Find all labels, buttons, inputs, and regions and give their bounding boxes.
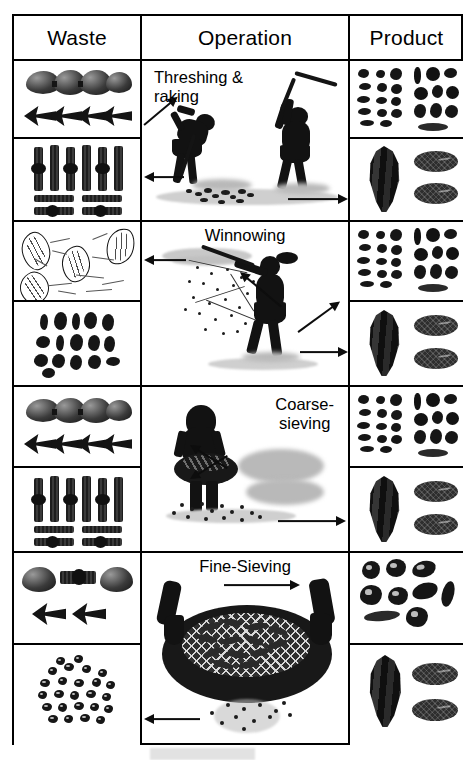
waste-cell-rachis-internodes-r3 xyxy=(14,387,140,466)
mixed-seeds-specimen xyxy=(350,222,463,300)
waste-cell-dark-fragments-r2 xyxy=(14,302,140,385)
column-header-waste: Waste xyxy=(14,16,140,59)
waste-cell-rachis-fragments-r4 xyxy=(14,553,140,643)
product-cell-cleaned-grain-r4 xyxy=(350,553,463,643)
rachis-fragment-specimen xyxy=(14,553,140,643)
spikelet-and-grains-specimen xyxy=(350,302,463,385)
waste-cell-culm-nodes-r1 xyxy=(14,139,140,220)
operation-label-coarse-sieving: Coarse- sieving xyxy=(275,395,334,433)
mixed-seeds-specimen xyxy=(350,387,463,466)
operation-cell-winnowing: Winnowing xyxy=(142,222,348,385)
product-cell-mixed-seeds-r1 xyxy=(350,61,463,137)
figure-sheet: Waste Operation Product xyxy=(0,0,474,760)
spikelet-and-grains-specimen xyxy=(350,139,463,220)
product-arrow-horizontal-r2 xyxy=(300,346,348,358)
waste-cell-light-chaff-r2 xyxy=(14,222,140,300)
product-cell-spikelet-grains-r1 xyxy=(350,139,463,220)
waste-arrow-horizontal-r4 xyxy=(144,713,200,725)
operation-label-winnowing: Winnowing xyxy=(142,226,348,245)
spikelet-and-grains-specimen xyxy=(350,645,463,745)
product-arrow-horizontal-r1 xyxy=(288,193,348,205)
dark-fragment-specimen xyxy=(14,302,140,385)
operation-label-fine-sieving: Fine-Sieving xyxy=(142,557,348,576)
product-cell-spikelet-grains-r2 xyxy=(350,302,463,385)
winnowing-scene xyxy=(142,222,348,385)
column-header-product: Product xyxy=(350,16,463,59)
waste-arrow-horizontal-r2 xyxy=(144,254,186,266)
mixed-seeds-specimen xyxy=(350,61,463,137)
waste-arrow-horizontal-r1 xyxy=(144,171,184,183)
column-header-product-label: Product xyxy=(370,26,444,50)
operation-cell-coarse-sieving: Coarse- sieving xyxy=(142,387,348,551)
operation-cell-threshing: Threshing & raking xyxy=(142,61,348,220)
column-header-waste-label: Waste xyxy=(47,26,107,50)
waste-cell-culm-nodes-r3 xyxy=(14,468,140,551)
rachis-internodes-specimen xyxy=(14,61,140,137)
product-arrow-horizontal-r4 xyxy=(224,579,300,591)
light-chaff-specimen xyxy=(14,222,140,300)
culm-nodes-specimen xyxy=(14,139,140,220)
waste-cell-rachis-internodes-r1 xyxy=(14,61,140,137)
figure-caption-fragment xyxy=(150,748,460,760)
culm-nodes-specimen xyxy=(14,468,140,551)
product-arrow-horizontal-r3 xyxy=(278,515,346,527)
operation-cell-fine-sieving: Fine-Sieving xyxy=(142,553,348,745)
waste-cell-small-weed-seeds-r4 xyxy=(14,645,140,745)
spikelet-and-grains-specimen xyxy=(350,468,463,551)
product-cell-mixed-seeds-r3 xyxy=(350,387,463,466)
small-weed-seeds-specimen xyxy=(14,645,140,745)
cleaned-grain-specimen xyxy=(350,553,463,643)
processing-flow-table: Waste Operation Product xyxy=(12,14,463,745)
operation-label-threshing: Threshing & raking xyxy=(154,68,243,106)
rachis-internodes-specimen xyxy=(14,387,140,466)
product-cell-spikelet-grains-r3 xyxy=(350,468,463,551)
product-cell-mixed-seeds-r2 xyxy=(350,222,463,300)
product-cell-spikelet-grains-r4 xyxy=(350,645,463,745)
column-header-operation-label: Operation xyxy=(198,26,292,50)
column-header-operation: Operation xyxy=(142,16,348,59)
